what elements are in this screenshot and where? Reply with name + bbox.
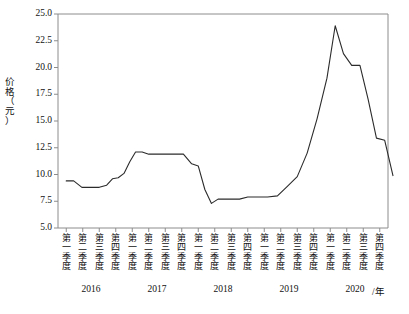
x-tick-label: 第二季度 (341, 234, 352, 271)
price-line-chart: 价 格 （ 元 ） 25.022.520.017.515.012.510.07.… (0, 0, 409, 314)
y-tick-label: 17.5 (14, 89, 52, 99)
x-tick-label: 第四季度 (176, 234, 187, 271)
x-tick-label-char: 度 (226, 262, 237, 271)
x-tick-label-char: 度 (358, 262, 369, 271)
x-tick-label-char: 度 (94, 262, 105, 271)
y-tick-label: 15.0 (14, 116, 52, 126)
x-tick-label: 第一季度 (61, 234, 72, 271)
x-axis-year-label: 2020 (335, 284, 375, 294)
x-tick-label-char: 度 (176, 262, 187, 271)
y-tick-label: 12.5 (14, 143, 52, 153)
x-tick-label: 第三季度 (94, 234, 105, 271)
price-series-line (66, 26, 393, 204)
x-tick-label-char: 度 (127, 262, 138, 271)
x-axis-year-label: 2018 (203, 284, 243, 294)
x-tick-label-char: 度 (160, 262, 171, 271)
y-tick-label: 25.0 (14, 9, 52, 19)
x-tick-label-char: 度 (275, 262, 286, 271)
x-tick-label-char: 度 (374, 262, 385, 271)
x-axis-year-label: 2016 (71, 284, 111, 294)
x-tick-label: 第二季度 (209, 234, 220, 271)
x-tick-label: 第四季度 (242, 234, 253, 271)
y-tick-label: 22.5 (14, 36, 52, 46)
x-tick-label-char: 度 (110, 262, 121, 271)
x-axis-year-label: 2019 (269, 284, 309, 294)
x-tick-label-char: 度 (325, 262, 336, 271)
x-tick-label: 第三季度 (292, 234, 303, 271)
x-axis-year-label: 2017 (137, 284, 177, 294)
x-tick-label-char: 度 (77, 262, 88, 271)
axes-group (58, 14, 388, 228)
x-tick-label-char: 度 (308, 262, 319, 271)
x-tick-label: 第一季度 (259, 234, 270, 271)
x-tick-label: 第一季度 (127, 234, 138, 271)
x-tick-label: 第二季度 (275, 234, 286, 271)
x-axis-unit-label: /年 (372, 284, 385, 298)
x-tick-label: 第三季度 (226, 234, 237, 271)
x-tick-label: 第四季度 (110, 234, 121, 271)
y-tick-label: 7.5 (14, 196, 52, 206)
y-tick-label: 5.0 (14, 223, 52, 233)
x-tick-label-char: 度 (193, 262, 204, 271)
x-tick-label: 第二季度 (143, 234, 154, 271)
x-tick-label-char: 度 (61, 262, 72, 271)
x-tick-label: 第三季度 (160, 234, 171, 271)
x-tick-label: 第四季度 (374, 234, 385, 271)
x-tick-label-char: 度 (242, 262, 253, 271)
x-tick-label-char: 度 (259, 262, 270, 271)
x-tick-label: 第三季度 (358, 234, 369, 271)
x-tick-label: 第二季度 (77, 234, 88, 271)
y-tick-label: 10.0 (14, 170, 52, 180)
x-tick-label-char: 度 (341, 262, 352, 271)
x-tick-marks (66, 228, 380, 232)
y-tick-label: 20.0 (14, 63, 52, 73)
x-tick-label-char: 度 (209, 262, 220, 271)
y-tick-marks (54, 14, 58, 228)
x-tick-label: 第一季度 (193, 234, 204, 271)
x-tick-label: 第四季度 (308, 234, 319, 271)
x-tick-label-char: 度 (292, 262, 303, 271)
x-tick-label-char: 度 (143, 262, 154, 271)
x-tick-label: 第一季度 (325, 234, 336, 271)
